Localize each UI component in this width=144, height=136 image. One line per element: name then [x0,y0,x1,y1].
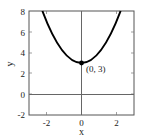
chart: (0, 3) 8 6 4 2 0 -2 -2 0 2 x y [0,0,144,136]
ytick-label: 0 [21,90,26,100]
ytick-label: -2 [18,110,26,120]
x-axis-label: x [79,126,84,136]
ytick-label: 6 [21,28,26,38]
xtick-label: 2 [114,118,119,128]
ytick-label: 2 [21,69,26,79]
vertex-point [79,61,84,66]
xtick-label: -2 [43,118,51,128]
ytick-label: 8 [21,7,26,17]
vertex-label: (0, 3) [86,64,106,74]
y-axis-label: y [4,62,15,67]
ytick-label: 4 [21,48,26,58]
